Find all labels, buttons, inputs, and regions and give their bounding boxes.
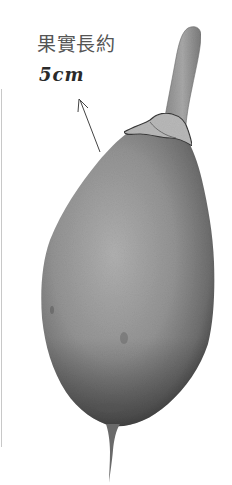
fruit-spot <box>50 306 54 314</box>
fruit-tail <box>106 424 120 483</box>
fruit-illustration <box>0 0 232 485</box>
fruit-base-shading <box>41 130 214 427</box>
fruit-spot <box>96 403 124 413</box>
arrow-icon <box>78 99 100 152</box>
fruit-stem <box>164 27 201 124</box>
fruit-spot <box>120 332 128 344</box>
